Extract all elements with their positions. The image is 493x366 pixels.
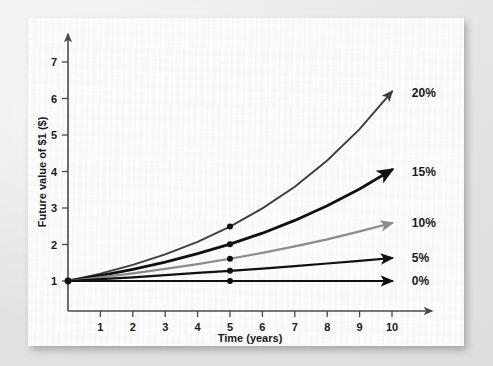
- x-axis-ticks: 12345678910: [97, 311, 398, 333]
- y-axis-title: Future value of $1 ($): [36, 116, 48, 227]
- data-point-marker: [227, 224, 233, 230]
- series-line-20pct: [68, 92, 392, 281]
- y-tick-label: 4: [51, 166, 58, 178]
- x-tick-label: 9: [357, 321, 363, 333]
- y-tick-label: 6: [51, 93, 57, 105]
- x-axis-title: Time (years): [218, 332, 283, 344]
- x-tick-label: 7: [292, 321, 298, 333]
- data-point-marker: [227, 256, 233, 262]
- data-point-marker: [227, 278, 233, 284]
- series-label-10pct: 10%: [412, 216, 436, 230]
- series-label-5pct: 5%: [412, 251, 430, 265]
- x-tick-label: 3: [162, 321, 168, 333]
- x-tick-label: 1: [97, 321, 103, 333]
- series-curves: [68, 92, 392, 281]
- y-tick-label: 2: [51, 239, 57, 251]
- future-value-chart: 1234567 Future value of $1 ($) 123456789…: [0, 0, 493, 366]
- x-tick-label: 2: [130, 321, 136, 333]
- y-tick-label: 7: [51, 56, 57, 68]
- x-tick-label: 10: [386, 321, 398, 333]
- x-axis: 12345678910 Time (years): [68, 311, 432, 344]
- data-point-marker: [227, 241, 233, 247]
- y-tick-label: 3: [51, 202, 57, 214]
- y-axis: 1234567 Future value of $1 ($): [36, 34, 68, 311]
- series-label-20pct: 20%: [412, 86, 436, 100]
- series-labels: 20%15%10%5%0%: [412, 86, 436, 288]
- series-label-15pct: 15%: [412, 165, 436, 179]
- y-axis-ticks: 1234567: [51, 56, 68, 287]
- y-tick-label: 5: [51, 129, 57, 141]
- data-point-marker: [227, 268, 233, 274]
- year5-markers: [227, 224, 233, 284]
- y-tick-label: 1: [51, 275, 57, 287]
- origin-point-marker: [65, 278, 72, 285]
- x-tick-label: 4: [195, 321, 202, 333]
- series-label-0pct: 0%: [412, 274, 430, 288]
- origin-marker: [65, 278, 72, 285]
- x-tick-label: 8: [324, 321, 330, 333]
